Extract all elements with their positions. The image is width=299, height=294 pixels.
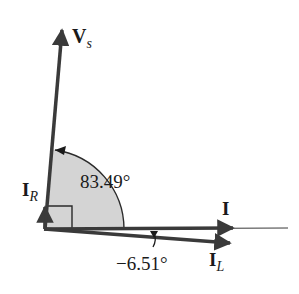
label-ir: IR (22, 179, 38, 204)
phasor-diagram: Vs IR I IL 83.49° −6.51° (0, 0, 299, 294)
angle-label-vs: 83.49° (80, 171, 130, 192)
phasor-i (44, 228, 233, 229)
label-il: IL (209, 249, 224, 274)
phasor-il (44, 229, 230, 243)
label-i: I (222, 198, 229, 219)
label-vs: Vs (72, 25, 92, 51)
angle-label-il: −6.51° (116, 253, 168, 274)
